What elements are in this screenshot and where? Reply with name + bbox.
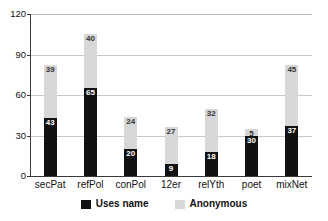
bar-segment-poet-uses-name[interactable]: 30 [245, 136, 258, 177]
bar-value-label: 24 [126, 118, 135, 126]
bar-group-mixnet[interactable]: 4537 [285, 65, 298, 176]
bar-segment-conpol-uses-name[interactable]: 20 [124, 149, 137, 176]
bar-group-conpol[interactable]: 2420 [124, 117, 137, 176]
legend-swatch-icon [81, 200, 91, 209]
bar-segment-secpat-uses-name[interactable]: 43 [44, 118, 57, 176]
bar-value-label: 18 [207, 153, 216, 161]
bar-value-label: 39 [46, 66, 55, 74]
bar-segment-secpat-anonymous[interactable]: 39 [44, 65, 57, 118]
bar-segment-conpol-anonymous[interactable]: 24 [124, 117, 137, 149]
bar-segment-poet-anonymous[interactable]: 5 [245, 129, 258, 136]
bar-segment-mixnet-uses-name[interactable]: 37 [285, 126, 298, 176]
x-label-mixnet: mixNet [276, 179, 307, 191]
bar-value-label: 43 [46, 119, 55, 127]
bar-segment-refpol-anonymous[interactable]: 40 [84, 34, 97, 88]
bar-segment-refpol-uses-name[interactable]: 65 [84, 88, 97, 176]
stacked-bar-chart: 0306090120 39434065242027932185304537 se… [0, 0, 328, 221]
x-label-refpol: refPol [77, 179, 103, 191]
x-label-poet: poet [242, 179, 261, 191]
bar-value-label: 37 [287, 127, 296, 135]
bar-value-label: 27 [167, 128, 176, 136]
bar-group-relyth[interactable]: 3218 [205, 109, 218, 176]
bar-group-secpat[interactable]: 3943 [44, 65, 57, 176]
legend-label: Anonymous [190, 199, 248, 209]
bar-value-label: 40 [86, 35, 95, 43]
y-tick-label-0: 0 [0, 171, 26, 181]
bar-group-refpol[interactable]: 4065 [84, 34, 97, 176]
y-tick-label-90: 90 [0, 50, 26, 60]
bar-value-label: 30 [247, 137, 256, 145]
bar-segment-relyth-anonymous[interactable]: 32 [205, 109, 218, 152]
bar-segment-mixnet-anonymous[interactable]: 45 [285, 65, 298, 126]
chart-legend: Uses nameAnonymous [0, 199, 328, 209]
x-label-12er: 12er [161, 179, 181, 191]
bar-value-label: 32 [207, 110, 216, 118]
x-axis-line [30, 176, 312, 177]
y-tick-label-120: 120 [0, 9, 26, 19]
x-label-secpat: secPat [35, 179, 66, 191]
y-tick-label-60: 60 [0, 90, 26, 100]
bar-value-label: 9 [169, 165, 173, 173]
bar-segment-relyth-uses-name[interactable]: 18 [205, 152, 218, 176]
bar-segment-12er-uses-name[interactable]: 9 [165, 164, 178, 176]
bar-segment-12er-anonymous[interactable]: 27 [165, 127, 178, 163]
bar-value-label: 20 [126, 150, 135, 158]
legend-item-uses-name[interactable]: Uses name [81, 199, 149, 209]
legend-label: Uses name [96, 199, 149, 209]
legend-swatch-icon [175, 200, 185, 209]
bar-value-label: 65 [86, 89, 95, 97]
bar-group-12er[interactable]: 279 [165, 127, 178, 176]
y-tick-mark-0 [27, 176, 30, 177]
x-axis-category-labels: secPatrefPolconPol12errelYthpoetmixNet [30, 179, 312, 195]
bar-group-poet[interactable]: 530 [245, 129, 258, 176]
y-tick-label-30: 30 [0, 131, 26, 141]
x-label-conpol: conPol [115, 179, 146, 191]
x-label-relyth: relYth [198, 179, 224, 191]
legend-item-anonymous[interactable]: Anonymous [175, 199, 248, 209]
bar-series-container: 39434065242027932185304537 [30, 14, 312, 176]
bar-value-label: 45 [287, 66, 296, 74]
